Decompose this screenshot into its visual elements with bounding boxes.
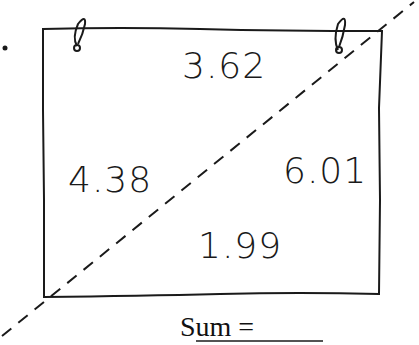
value-left: 4.38 bbox=[68, 159, 152, 200]
right-hanger-icon bbox=[336, 19, 346, 53]
value-bottom: 1.99 bbox=[198, 225, 282, 266]
sum-label: Sum = bbox=[180, 311, 254, 342]
value-top: 3.62 bbox=[182, 45, 266, 86]
bullet-dot bbox=[3, 46, 8, 51]
left-hanger-icon bbox=[74, 19, 85, 51]
worksheet-diagram: 3.62 4.38 6.01 1.99 Sum = bbox=[0, 0, 419, 345]
value-right: 6.01 bbox=[283, 150, 367, 191]
